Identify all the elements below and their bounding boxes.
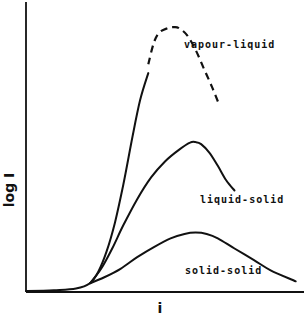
series-label-liquid-solid: liquid-solid [200,194,284,205]
chart: i log I vapour-liquid liquid-solid solid… [0,0,306,317]
series-layer [26,27,296,291]
series-vapour-liquid [26,27,219,291]
series-label-solid-solid: solid-solid [185,265,262,276]
series-line-liquid-solid [90,142,235,284]
series-label-vapour-liquid: vapour-liquid [184,39,275,50]
y-axis-title: log I [1,173,17,208]
series-line-vapour-liquid [26,73,148,291]
x-axis-title: i [158,300,163,316]
series-liquid-solid [90,142,235,284]
